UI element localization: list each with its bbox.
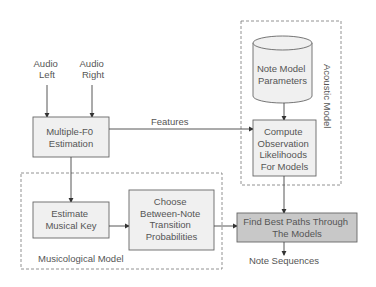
compute-observation-label: Compute Observation Likelihoods For Mode… xyxy=(258,126,312,172)
multiple-f0-label: Multiple-F0 Estimation xyxy=(46,126,96,149)
features-label: Features xyxy=(151,116,189,127)
audio-left-label: Audio Left xyxy=(34,58,61,80)
musicological-model-label: Musicological Model xyxy=(38,253,124,264)
multiple-f0-block[interactable] xyxy=(33,117,109,157)
note-sequences-label: Note Sequences xyxy=(249,255,319,266)
diagram-canvas: Audio Left Audio Right Multiple-F0 Estim… xyxy=(0,0,376,287)
acoustic-model-label: Acoustic Model xyxy=(322,64,333,128)
audio-right-label: Audio Right xyxy=(80,58,107,80)
note-model-parameters-label: Note Model Parameters xyxy=(257,63,308,86)
estimate-key-label: Estimate Musical Key xyxy=(45,208,96,231)
